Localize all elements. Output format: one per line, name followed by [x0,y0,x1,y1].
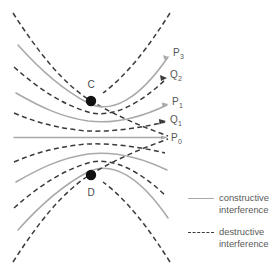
ray-label-q2-sub: 2 [178,75,182,82]
ray-label-q2: Q 2 [170,69,182,82]
ray-label-p0-sub: 0 [178,138,182,145]
legend-item-destructive: destructive interference [188,226,278,249]
solid-line-icon [188,192,214,204]
ray-label-p1-base: P [172,96,179,107]
ray-label-q2-base: Q [170,69,178,80]
source-point-c [86,96,96,106]
destructive-curve-upper-4 [13,13,168,136]
destructive-curve-lower-2 [14,161,166,208]
ray-label-q1-base: Q [170,114,178,125]
source-point-d [86,170,96,180]
source-label-c: C [87,79,94,90]
legend: constructive interference destructive in… [188,192,278,260]
ray-label-p3-base: P [173,47,180,58]
ray-label-p1: P 1 [172,96,183,109]
destructive-curve-q2 [14,67,166,114]
interference-diagram: C D P 3 Q 2 P 1 Q 1 P 0 constructive int… [0,0,278,276]
ray-label-q1: Q 1 [170,114,182,127]
ray-label-p3: P 3 [173,47,184,60]
legend-label-destructive: destructive interference [219,226,269,249]
source-label-d: D [87,187,94,198]
arrowhead-q1 [159,119,166,125]
destructive-curve-upper-4-right [103,13,170,93]
ray-label-p1-sub: 1 [179,102,183,109]
dashed-line-icon [188,226,214,238]
legend-item-constructive: constructive interference [188,192,278,215]
ray-label-q1-sub: 1 [178,120,182,127]
arrowhead-q2 [160,75,167,81]
ray-label-p0: P 0 [171,132,182,145]
destructive-curve-lower-3 [13,139,168,262]
ray-label-p0-base: P [171,132,178,143]
destructive-curve-lower-3-right [103,182,170,262]
ray-label-p3-sub: 3 [180,53,184,60]
legend-label-constructive: constructive interference [219,192,269,215]
arrowhead-p0 [161,136,167,140]
